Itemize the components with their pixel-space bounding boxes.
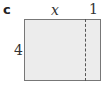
dashed-divider [85, 19, 86, 81]
height-label: 4 [14, 43, 23, 57]
area-rectangle [24, 19, 101, 81]
part-label: c [3, 3, 11, 16]
width-label-1: 1 [89, 2, 98, 16]
width-label-x: x [51, 3, 59, 17]
